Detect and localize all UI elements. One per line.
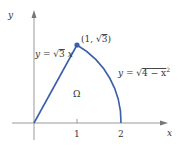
arc-equation-label: y = √4 − x2 (117, 66, 170, 78)
arc-curve (77, 45, 121, 123)
y-axis-arrow-icon (32, 10, 37, 18)
y-axis-label: y (7, 10, 14, 20)
line-equation-label: y = √3 x (34, 49, 73, 59)
x-axis-label: x (167, 128, 172, 138)
intersection-point (74, 42, 79, 47)
point-label: (1, √3) (81, 34, 111, 44)
tick-label-1: 1 (74, 129, 80, 139)
region-diagram: y x 1 2 y = √3 x (1, √3) y = √4 − x2 Ω (0, 0, 180, 149)
region-omega-label: Ω (73, 89, 80, 99)
x-axis-arrow-icon (160, 121, 168, 126)
tick-label-2: 2 (118, 129, 124, 139)
